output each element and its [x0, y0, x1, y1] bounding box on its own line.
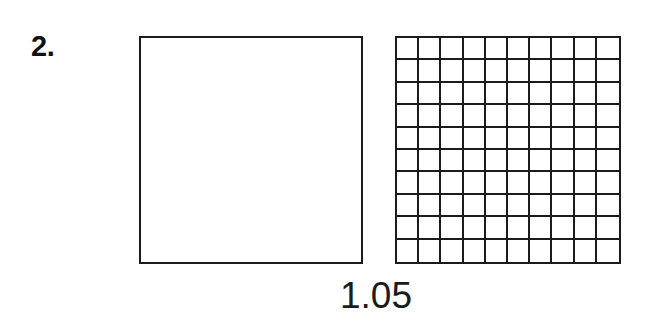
- grid-cell[interactable]: [419, 240, 441, 262]
- grid-cell[interactable]: [575, 105, 597, 127]
- grid-cell[interactable]: [530, 217, 552, 239]
- grid-cell[interactable]: [464, 217, 486, 239]
- grid-cell[interactable]: [597, 150, 619, 172]
- grid-cell[interactable]: [508, 105, 530, 127]
- grid-cell[interactable]: [508, 38, 530, 60]
- grid-cell[interactable]: [486, 128, 508, 150]
- grid-cell[interactable]: [530, 38, 552, 60]
- grid-cell[interactable]: [530, 240, 552, 262]
- grid-cell[interactable]: [530, 195, 552, 217]
- grid-cell[interactable]: [441, 172, 463, 194]
- grid-cell[interactable]: [397, 217, 419, 239]
- grid-cell[interactable]: [552, 217, 574, 239]
- grid-cell[interactable]: [597, 217, 619, 239]
- grid-cell[interactable]: [464, 240, 486, 262]
- grid-cell[interactable]: [441, 217, 463, 239]
- grid-cell[interactable]: [575, 60, 597, 82]
- grid-cell[interactable]: [508, 150, 530, 172]
- grid-cell[interactable]: [597, 172, 619, 194]
- grid-cell[interactable]: [419, 38, 441, 60]
- grid-cell[interactable]: [486, 105, 508, 127]
- grid-cell[interactable]: [597, 83, 619, 105]
- grid-cell[interactable]: [552, 195, 574, 217]
- grid-cell[interactable]: [508, 83, 530, 105]
- grid-cell[interactable]: [397, 195, 419, 217]
- grid-cell[interactable]: [508, 60, 530, 82]
- grid-cell[interactable]: [552, 128, 574, 150]
- grid-cell[interactable]: [397, 128, 419, 150]
- grid-cell[interactable]: [552, 60, 574, 82]
- grid-cell[interactable]: [441, 105, 463, 127]
- grid-cell[interactable]: [552, 38, 574, 60]
- grid-cell[interactable]: [575, 83, 597, 105]
- grid-cell[interactable]: [508, 240, 530, 262]
- grid-cell[interactable]: [486, 150, 508, 172]
- grid-cell[interactable]: [397, 83, 419, 105]
- grid-cell[interactable]: [464, 150, 486, 172]
- grid-cell[interactable]: [530, 150, 552, 172]
- grid-cell[interactable]: [419, 195, 441, 217]
- grid-cell[interactable]: [597, 105, 619, 127]
- grid-cell[interactable]: [575, 172, 597, 194]
- grid-cell[interactable]: [486, 60, 508, 82]
- grid-cell[interactable]: [464, 128, 486, 150]
- grid-cell[interactable]: [419, 217, 441, 239]
- grid-cell[interactable]: [508, 172, 530, 194]
- grid-cell[interactable]: [530, 172, 552, 194]
- grid-cell[interactable]: [552, 172, 574, 194]
- grid-cell[interactable]: [419, 83, 441, 105]
- grid-cell[interactable]: [552, 240, 574, 262]
- grid-cell[interactable]: [575, 38, 597, 60]
- grid-cell[interactable]: [597, 240, 619, 262]
- grid-cell[interactable]: [441, 60, 463, 82]
- grid-cell[interactable]: [397, 38, 419, 60]
- grid-cell[interactable]: [552, 83, 574, 105]
- grid-cell[interactable]: [508, 128, 530, 150]
- grid-cell[interactable]: [575, 128, 597, 150]
- grid-cell[interactable]: [419, 105, 441, 127]
- grid-cell[interactable]: [397, 172, 419, 194]
- grid-cell[interactable]: [508, 217, 530, 239]
- grid-cell[interactable]: [441, 150, 463, 172]
- grid-cell[interactable]: [419, 60, 441, 82]
- grid-cell[interactable]: [464, 60, 486, 82]
- grid-cell[interactable]: [575, 240, 597, 262]
- grid-cell[interactable]: [441, 128, 463, 150]
- grid-cell[interactable]: [441, 240, 463, 262]
- grid-cell[interactable]: [486, 195, 508, 217]
- grid-cell[interactable]: [575, 150, 597, 172]
- grid-cell[interactable]: [530, 128, 552, 150]
- grid-cell[interactable]: [575, 195, 597, 217]
- grid-cell[interactable]: [441, 195, 463, 217]
- grid-cell[interactable]: [464, 38, 486, 60]
- grid-cell[interactable]: [397, 60, 419, 82]
- grid-cell[interactable]: [597, 38, 619, 60]
- grid-cell[interactable]: [464, 172, 486, 194]
- grid-cell[interactable]: [508, 195, 530, 217]
- grid-cell[interactable]: [419, 172, 441, 194]
- grid-cell[interactable]: [397, 150, 419, 172]
- grid-cell[interactable]: [441, 83, 463, 105]
- grid-cell[interactable]: [486, 83, 508, 105]
- blank-unit-square[interactable]: [139, 36, 363, 264]
- grid-cell[interactable]: [597, 128, 619, 150]
- grid-cell[interactable]: [464, 83, 486, 105]
- grid-cell[interactable]: [486, 217, 508, 239]
- grid-cell[interactable]: [552, 105, 574, 127]
- grid-cell[interactable]: [597, 60, 619, 82]
- grid-cell[interactable]: [530, 83, 552, 105]
- grid-cell[interactable]: [530, 60, 552, 82]
- grid-cell[interactable]: [575, 217, 597, 239]
- grid-cell[interactable]: [597, 195, 619, 217]
- grid-cell[interactable]: [464, 105, 486, 127]
- grid-cell[interactable]: [441, 38, 463, 60]
- grid-cell[interactable]: [552, 150, 574, 172]
- hundredths-grid[interactable]: [395, 36, 621, 264]
- grid-cell[interactable]: [464, 195, 486, 217]
- grid-cell[interactable]: [419, 128, 441, 150]
- grid-cell[interactable]: [486, 38, 508, 60]
- grid-cell[interactable]: [397, 240, 419, 262]
- grid-cell[interactable]: [419, 150, 441, 172]
- grid-cell[interactable]: [397, 105, 419, 127]
- grid-cell[interactable]: [530, 105, 552, 127]
